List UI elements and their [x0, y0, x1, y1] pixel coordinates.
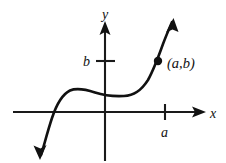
marked-point-dot [154, 57, 162, 65]
coordinate-graph-svg: y x a b (a,b) [0, 0, 226, 163]
tick-label-b: b [83, 54, 90, 69]
tick-label-a: a [161, 125, 168, 140]
curve-start-arrow-icon [34, 145, 47, 160]
y-axis-label: y [100, 7, 109, 22]
graph-figure: y x a b (a,b) [0, 0, 226, 163]
x-axis-label: x [209, 106, 217, 121]
curve-end-arrow-icon [166, 18, 179, 33]
marked-point-label: (a,b) [167, 55, 195, 72]
function-curve [41, 22, 172, 155]
